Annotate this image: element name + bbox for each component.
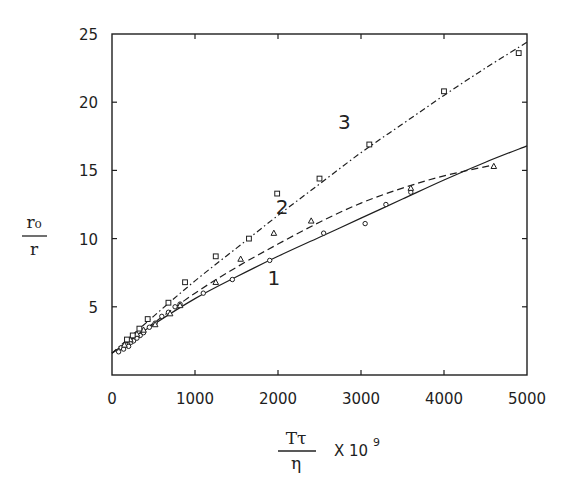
y-axis-title: r₀ r	[22, 212, 47, 259]
square-marker	[137, 326, 142, 331]
square-marker	[145, 317, 150, 322]
y-tick-label: 10	[79, 231, 98, 249]
x-axis-title: Tτ η X 10 9	[278, 428, 380, 473]
y-tick-label: 20	[79, 94, 98, 112]
triangle-marker	[271, 230, 277, 235]
curve-label-3: 3	[338, 110, 351, 134]
x-tick-label: 3000	[342, 390, 380, 408]
circle-marker	[384, 202, 388, 206]
x-axis-title-numerator: Tτ	[286, 428, 307, 448]
y-axis-title-denominator: r	[30, 239, 39, 259]
square-marker	[247, 236, 252, 241]
x-tick-label: 2000	[259, 390, 297, 408]
x-tick-label: 5000	[508, 390, 546, 408]
triangle-marker	[308, 218, 314, 223]
circle-marker	[201, 291, 205, 295]
x-axis-title-exponent: 9	[373, 436, 380, 449]
data-points	[116, 51, 521, 354]
circle-marker	[230, 277, 234, 281]
square-marker	[442, 89, 447, 94]
square-marker	[367, 142, 372, 147]
plot-frame	[112, 34, 527, 375]
triangle-marker	[238, 256, 244, 261]
x-tick-label: 1000	[176, 390, 214, 408]
triangle-marker	[491, 163, 497, 168]
square-marker	[516, 51, 521, 56]
square-marker	[317, 176, 322, 181]
circle-marker	[321, 231, 325, 235]
curve-labels: 123	[267, 110, 350, 289]
square-marker	[213, 254, 218, 259]
y-tick-label: 5	[88, 299, 98, 317]
curve-label-1: 1	[267, 266, 280, 290]
square-marker	[125, 337, 130, 342]
x-axis-title-denominator: η	[291, 453, 301, 473]
fit-curve-2	[112, 165, 494, 353]
x-axis-title-scale: X 10	[334, 442, 368, 460]
circle-marker	[160, 314, 164, 318]
square-marker	[130, 333, 135, 338]
circle-marker	[173, 305, 177, 309]
x-tick-label: 0	[107, 390, 117, 408]
y-tick-label: 25	[79, 26, 98, 44]
x-tick-label: 4000	[425, 390, 463, 408]
circle-marker	[116, 350, 120, 354]
axes	[112, 34, 527, 375]
square-marker	[166, 300, 171, 305]
y-axis-title-numerator: r₀	[27, 212, 42, 232]
y-tick-label: 15	[79, 162, 98, 180]
circle-marker	[147, 325, 151, 329]
curve-label-2: 2	[276, 195, 289, 219]
triangle-marker	[213, 279, 219, 284]
chart: 010002000300040005000 510152025 123 r₀ r…	[0, 0, 578, 485]
square-marker	[183, 280, 188, 285]
x-axis-ticks: 010002000300040005000	[107, 34, 546, 408]
y-axis-ticks: 510152025	[79, 26, 527, 317]
circle-marker	[363, 221, 367, 225]
circle-marker	[268, 258, 272, 262]
